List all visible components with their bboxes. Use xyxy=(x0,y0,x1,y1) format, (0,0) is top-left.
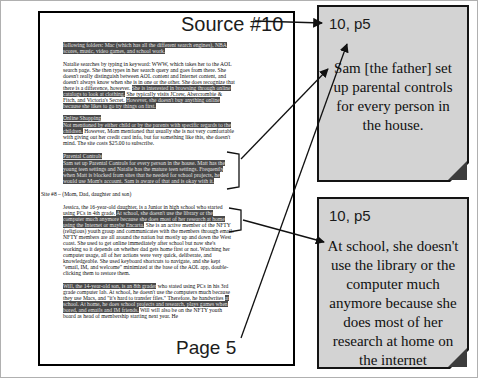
section-heading: Parental Controls xyxy=(63,153,235,159)
sticky-note-2: 10, p5 At school, she doesn't use the li… xyxy=(317,197,469,369)
note-1-quote: Sam [the father] set up parental control… xyxy=(326,59,460,135)
highlighted-segment: Sam set up Parental Controls for every p… xyxy=(63,160,225,184)
site-line: Site #8 – (Mom, Dad, daughter and son) xyxy=(41,191,235,197)
highlighted-segment: following folders: Mac (which has all th… xyxy=(63,42,227,54)
note-2-quote: At school, she doesn't use the library o… xyxy=(326,237,460,370)
folded-corner-icon xyxy=(448,161,467,180)
text-segment: She is an active member of the NFTY (rel… xyxy=(63,222,234,276)
highlighted-heading: Online Shopping xyxy=(63,115,101,121)
diagram-canvas: Source #10 following folders: Mac (which… xyxy=(0,0,478,378)
folded-corner-icon xyxy=(448,348,467,367)
text-segment: However, Mom mentioned that usually she … xyxy=(63,128,234,146)
sticky-note-1: 10, p5 Sam [the father] set up parental … xyxy=(317,5,469,182)
highlighted-heading: Parental Controls xyxy=(63,153,102,159)
page-number-label: Page 5 xyxy=(176,337,236,359)
section-heading: Online Shopping xyxy=(63,115,235,121)
note-2-citation: 10, p5 xyxy=(329,207,371,224)
document-text: following folders: Mac (which has all th… xyxy=(63,42,235,325)
document-paragraph: following folders: Mac (which has all th… xyxy=(63,42,235,54)
document-paragraph: Natalie searches by typing in keyword: W… xyxy=(63,61,235,109)
source-label: Source #10 xyxy=(181,13,283,36)
document-page: Source #10 following folders: Mac (which… xyxy=(38,11,295,366)
note-1-citation: 10, p5 xyxy=(329,15,371,32)
jessica-paragraph: Jessica, the 16-year-old daughter, is a … xyxy=(63,204,235,276)
parental-controls-paragraph: Sam set up Parental Controls for every p… xyxy=(63,160,235,184)
document-paragraph: Not mentioned by either child or by the … xyxy=(63,122,235,146)
will-paragraph: Will, the 14-year-old son, is an 8th gra… xyxy=(63,283,235,319)
